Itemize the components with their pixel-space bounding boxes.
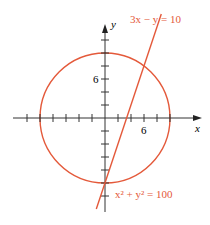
coordinate-plane-diagram: y x 6 6 3x − y = 10 x² + y² = 100 (0, 0, 210, 225)
x-axis-arrow-icon (193, 115, 202, 121)
y-axis-label: y (110, 18, 116, 30)
y-tick-label-6: 6 (93, 73, 99, 85)
line-curve (96, 14, 161, 209)
x-tick-label-6: 6 (141, 124, 147, 136)
x-axis-label: x (194, 122, 200, 134)
circle-equation-label: x² + y² = 100 (115, 188, 173, 200)
y-axis-arrow-icon (102, 24, 108, 33)
line-equation-label: 3x − y = 10 (130, 13, 181, 25)
